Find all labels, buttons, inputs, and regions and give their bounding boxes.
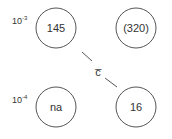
node-top-right: (320) (116, 8, 156, 48)
connector-line-lower (105, 78, 117, 87)
connector-line-upper (82, 52, 92, 61)
row-label-top: 10-3 (12, 15, 28, 26)
diagram: 10-3 10-4 145 (320) na 16 c̅ (0, 0, 172, 139)
node-value: na (50, 101, 63, 113)
node-top-left: 145 (36, 8, 76, 48)
connector-label: c̅ (94, 66, 102, 78)
node-value: (320) (123, 22, 149, 34)
node-value: 145 (47, 22, 65, 34)
node-value: 16 (130, 101, 142, 113)
node-bottom-right: 16 (116, 87, 156, 127)
row-label-bottom: 10-4 (12, 94, 28, 105)
node-bottom-left: na (36, 87, 76, 127)
